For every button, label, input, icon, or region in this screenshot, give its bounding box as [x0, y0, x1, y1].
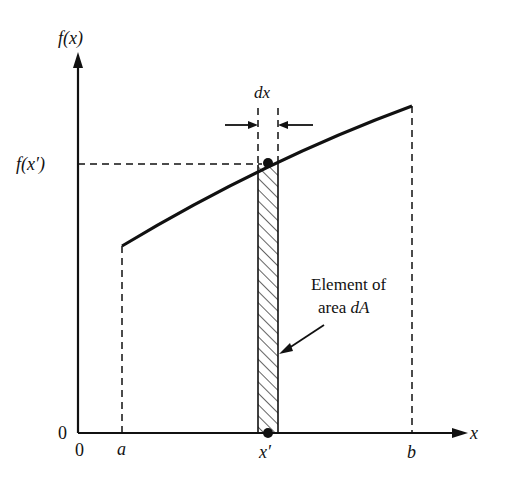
annotation-arrow [279, 325, 324, 354]
annotation-arrow-icon [279, 343, 293, 354]
arrow-left-icon [278, 121, 288, 129]
b-label: b [407, 442, 416, 462]
annotation-line-1: Element of [311, 275, 386, 294]
y-axis [73, 52, 83, 433]
point-x-prime [263, 428, 273, 438]
y-axis-label: f(x) [58, 28, 83, 49]
dx-arrows [225, 121, 313, 129]
fx-prime-label: f(x′) [16, 154, 45, 175]
x-axis-label: x [469, 423, 478, 443]
origin-y-label: 0 [58, 423, 67, 443]
area-element-strip [258, 165, 278, 433]
dx-label: dx [254, 83, 271, 102]
x-prime-label: x′ [258, 442, 272, 462]
arrow-right-icon [248, 121, 258, 129]
x-axis-arrow-icon [452, 428, 468, 438]
origin-x-label: 0 [75, 440, 84, 460]
y-axis-arrow-icon [73, 52, 83, 68]
guide-lines [78, 106, 412, 433]
annotation-line-2: area dA [318, 298, 370, 317]
point-on-curve [263, 158, 273, 168]
a-label: a [117, 439, 126, 459]
integral-area-diagram: f(x) f(x′) dx Element of area dA 0 0 a x… [0, 0, 510, 479]
